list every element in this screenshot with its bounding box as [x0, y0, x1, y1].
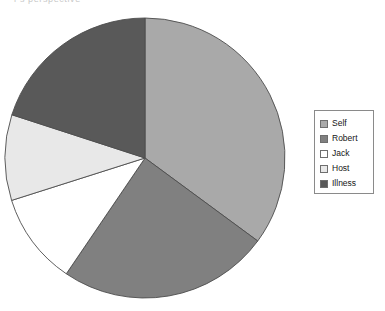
- pie-svg: [0, 8, 300, 311]
- legend-item-label: Self: [332, 116, 347, 131]
- legend-item-jack[interactable]: Jack: [320, 146, 369, 161]
- legend-item-host[interactable]: Host: [320, 161, 369, 176]
- legend-swatch-icon: [320, 180, 328, 188]
- legend: SelfRobertJackHostIllness: [314, 110, 374, 194]
- legend-item-self[interactable]: Self: [320, 116, 369, 131]
- legend-swatch-icon: [320, 150, 328, 158]
- legend-item-label: Jack: [332, 146, 349, 161]
- legend-swatch-icon: [320, 165, 328, 173]
- legend-item-illness[interactable]: Illness: [320, 176, 369, 191]
- pie-slice-group: [5, 18, 285, 298]
- legend-swatch-icon: [320, 120, 328, 128]
- legend-item-label: Host: [332, 161, 349, 176]
- legend-item-label: Robert: [332, 131, 358, 146]
- pie-chart-figure: r's perspective SelfRobertJackHostIllnes…: [0, 0, 385, 311]
- legend-swatch-icon: [320, 135, 328, 143]
- legend-item-robert[interactable]: Robert: [320, 131, 369, 146]
- clipped-caption-text: r's perspective: [14, 0, 81, 4]
- legend-item-label: Illness: [332, 176, 356, 191]
